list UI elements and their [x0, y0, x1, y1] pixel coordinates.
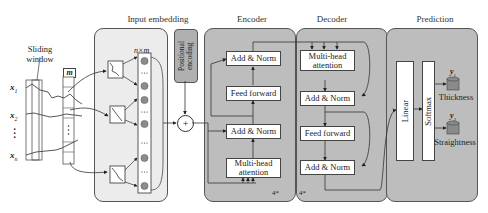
diagram-graphics	[0, 0, 488, 213]
encoder-add-norm-bottom: Add & Norm	[226, 124, 281, 139]
softmax-label: Softmax	[424, 97, 433, 126]
output-thickness-label: Thickness	[436, 92, 476, 102]
linear-layer: Linear	[396, 61, 414, 161]
encoder-mha-line2: attention	[239, 168, 269, 177]
decoder-mha-line2: attention	[313, 61, 343, 70]
decoder-repeat-label: 4*	[299, 189, 306, 197]
encoder-repeat-label: 4*	[272, 189, 279, 197]
decoder-add-norm-bottom: Add & Norm	[300, 160, 355, 175]
linear-label: Linear	[401, 100, 410, 122]
encoder-feed-forward: Feed forward	[226, 86, 281, 101]
output-y1-symbol: y1	[450, 67, 456, 78]
encoder-add-norm-top: Add & Norm	[226, 51, 281, 66]
output-y2-symbol: y2	[450, 111, 456, 122]
decoder-multi-head-attention: Multi-head attention	[300, 50, 355, 71]
encoder-multi-head-attention: Multi-head attention	[226, 158, 281, 178]
decoder-add-norm-top: Add & Norm	[300, 91, 355, 106]
decoder-feed-forward: Feed forward	[300, 126, 355, 141]
output-straightness-label: Straightness	[430, 137, 480, 147]
